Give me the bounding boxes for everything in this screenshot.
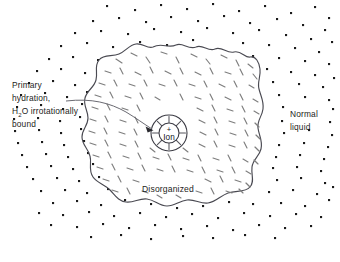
disorganized-label: Disorganized	[142, 184, 194, 194]
primary-hydration-line3-rest: O irrotationally	[22, 106, 79, 116]
normal-liquid-line1: Normal	[290, 109, 318, 119]
normal-liquid-line2: liquid	[290, 122, 311, 132]
ion-label: Ion	[163, 133, 175, 142]
primary-hydration-line3: H2O irrotationally	[12, 106, 79, 118]
primary-hydration-shell: + Ion	[151, 115, 187, 151]
primary-hydration-line2: hydration,	[12, 93, 50, 103]
diagram-canvas: + Ion Primary hydration, H2O irrotationa…	[0, 0, 340, 262]
ion-hydration-diagram: + Ion Primary hydration, H2O irrotationa…	[0, 0, 340, 262]
primary-hydration-line4: bound	[12, 119, 36, 129]
primary-hydration-line1: Primary	[12, 80, 43, 90]
